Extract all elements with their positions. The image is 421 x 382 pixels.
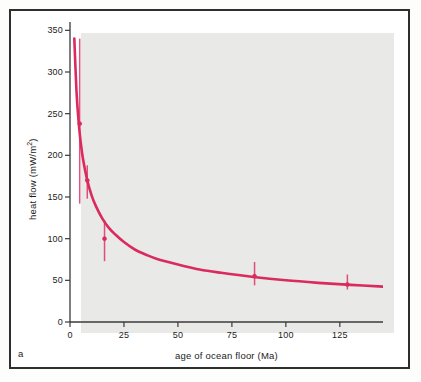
x-tick-label: 50 (173, 330, 183, 340)
y-tick-label: 0 (30, 317, 63, 327)
y-tick-label: 100 (30, 234, 63, 244)
y-axis-title-text: heat flow (mW/m (27, 146, 38, 220)
panel-label: a (18, 348, 23, 359)
y-axis-title-suffix: ) (27, 138, 38, 141)
x-tick-label: 0 (67, 330, 72, 340)
figure-frame (9, 9, 410, 369)
y-tick-label: 300 (30, 67, 63, 77)
figure-panel: 050100150200250300350 0255075100125 heat… (0, 0, 421, 382)
y-tick-label: 250 (30, 109, 63, 119)
y-axis-title: heat flow (mW/m2) (26, 138, 38, 220)
x-tick-label: 125 (332, 330, 348, 340)
x-tick-label: 75 (227, 330, 237, 340)
y-tick-label: 50 (30, 275, 63, 285)
x-tick-label: 100 (278, 330, 294, 340)
x-axis-title: age of ocean floor (Ma) (157, 350, 297, 361)
y-axis-title-exponent: 2 (26, 142, 33, 146)
y-tick-label: 350 (30, 25, 63, 35)
x-tick-label: 25 (119, 330, 129, 340)
plot-area (81, 33, 394, 333)
